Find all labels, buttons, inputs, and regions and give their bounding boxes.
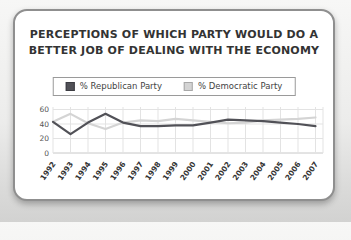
svg-text:1994: 1994: [73, 160, 92, 182]
republican-swatch-icon: [66, 82, 75, 91]
svg-text:2005: 2005: [266, 160, 285, 182]
svg-text:2000: 2000: [178, 160, 197, 182]
svg-text:2006: 2006: [283, 160, 302, 182]
svg-text:20: 20: [39, 134, 49, 143]
svg-text:40: 40: [39, 120, 49, 129]
svg-text:0: 0: [44, 149, 49, 158]
legend-label-republican: % Republican Party: [80, 81, 162, 91]
legend-item-republican: % Republican Party: [66, 81, 162, 91]
svg-text:2003: 2003: [231, 160, 250, 182]
svg-text:2004: 2004: [248, 160, 267, 182]
svg-text:1998: 1998: [143, 160, 162, 182]
title-line-1: PERCEPTIONS OF WHICH PARTY WOULD DO A: [15, 27, 333, 43]
legend-item-democratic: % Democratic Party: [184, 81, 282, 91]
svg-text:2007: 2007: [301, 160, 320, 182]
legend-label-democratic: % Democratic Party: [198, 81, 282, 91]
chart-card: PERCEPTIONS OF WHICH PARTY WOULD DO A BE…: [13, 9, 335, 201]
svg-text:1996: 1996: [108, 160, 127, 182]
chart-legend: % Republican Party % Democratic Party: [53, 77, 296, 96]
svg-text:1992: 1992: [38, 160, 57, 182]
svg-text:1993: 1993: [56, 160, 75, 182]
chart-canvas: 0204060199219931994199519961997199819992…: [20, 106, 342, 196]
svg-text:60: 60: [39, 106, 49, 114]
svg-text:1997: 1997: [126, 160, 145, 182]
economy-line-chart: 0204060199219931994199519961997199819992…: [20, 106, 342, 196]
svg-text:1999: 1999: [161, 160, 180, 182]
chart-title: PERCEPTIONS OF WHICH PARTY WOULD DO A BE…: [15, 27, 333, 59]
title-line-2: BETTER JOB OF DEALING WITH THE ECONOMY: [15, 43, 333, 59]
svg-text:2002: 2002: [213, 160, 232, 182]
democratic-swatch-icon: [184, 82, 193, 91]
svg-text:2001: 2001: [196, 160, 215, 182]
svg-text:1995: 1995: [91, 160, 110, 182]
